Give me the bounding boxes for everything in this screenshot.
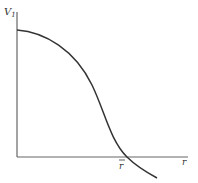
v1-curve bbox=[17, 30, 157, 178]
r-bar-label: r bbox=[119, 161, 124, 171]
x-axis-label: r bbox=[182, 157, 187, 167]
y-axis-label: V1 bbox=[4, 6, 16, 19]
diagram-canvas: V1 r r bbox=[0, 0, 198, 183]
